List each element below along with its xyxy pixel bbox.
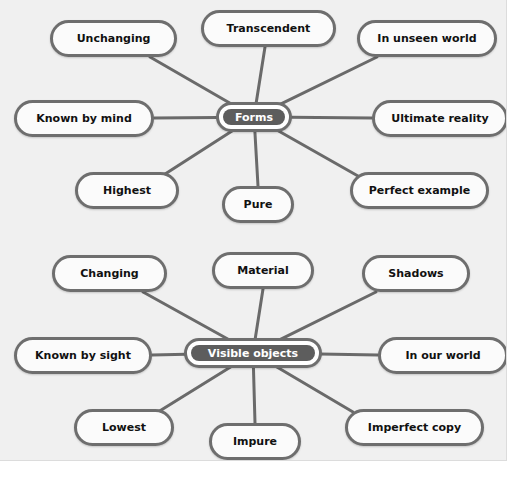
center-node-visible-objects-label: Visible objects <box>191 345 315 361</box>
edge-forms-to-pure <box>255 130 258 186</box>
node-ultimate-reality[interactable]: Ultimate reality <box>372 100 507 137</box>
edge-visible-objects-to-known-by-sight <box>152 354 186 355</box>
node-known-by-mind[interactable]: Known by mind <box>14 100 154 137</box>
edge-forms-to-perfect-example <box>273 128 358 176</box>
edge-forms-to-unchanging <box>150 57 235 106</box>
diagram-root: Forms Unchanging Transcendent In unseen … <box>0 0 523 478</box>
node-unchanging[interactable]: Unchanging <box>50 20 177 57</box>
node-impure[interactable]: Impure <box>209 423 301 460</box>
center-node-forms[interactable]: Forms <box>216 102 292 132</box>
edge-visible-objects-to-changing <box>143 292 231 341</box>
node-material[interactable]: Material <box>212 252 314 289</box>
node-in-unseen-world[interactable]: In unseen world <box>357 20 497 57</box>
node-lowest[interactable]: Lowest <box>74 409 174 446</box>
node-highest[interactable]: Highest <box>75 172 179 209</box>
node-perfect-example[interactable]: Perfect example <box>350 172 489 209</box>
edge-visible-objects-to-material <box>255 289 263 340</box>
node-shadows[interactable]: Shadows <box>362 255 470 292</box>
edge-visible-objects-to-impure <box>253 366 255 423</box>
node-imperfect-copy[interactable]: Imperfect copy <box>345 409 484 446</box>
node-pure[interactable]: Pure <box>222 186 294 223</box>
diagram-panel: Forms Unchanging Transcendent In unseen … <box>0 0 507 461</box>
node-known-by-sight[interactable]: Known by sight <box>14 337 152 374</box>
center-node-forms-label: Forms <box>223 109 285 125</box>
edge-visible-objects-to-lowest <box>158 365 233 412</box>
center-node-visible-objects[interactable]: Visible objects <box>184 338 322 368</box>
edge-layer <box>0 0 506 460</box>
node-in-our-world[interactable]: In our world <box>378 337 507 374</box>
edge-visible-objects-to-imperfect-copy <box>274 365 353 412</box>
edge-forms-to-ultimate-reality <box>290 117 372 118</box>
edge-forms-to-in-unseen-world <box>275 57 377 107</box>
edge-forms-to-known-by-mind <box>154 117 218 118</box>
edge-forms-to-transcendent <box>256 47 265 104</box>
node-changing[interactable]: Changing <box>52 255 167 292</box>
node-transcendent[interactable]: Transcendent <box>201 10 336 47</box>
edge-visible-objects-to-in-our-world <box>320 354 378 355</box>
edge-forms-to-highest <box>162 128 236 176</box>
edge-visible-objects-to-shadows <box>277 292 376 341</box>
